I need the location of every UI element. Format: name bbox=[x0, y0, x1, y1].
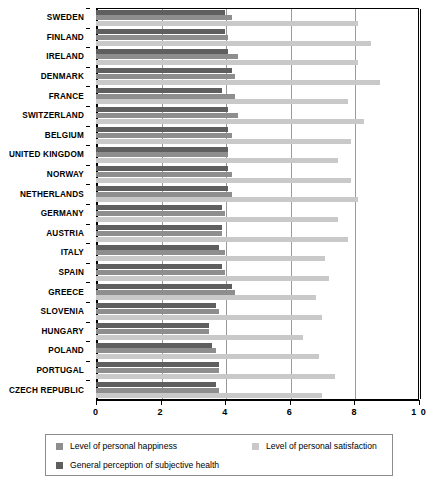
bar-happiness-czech-republic bbox=[96, 388, 219, 393]
x-axis-tick-label-2: 2 bbox=[158, 407, 164, 417]
y-axis-tick bbox=[86, 165, 90, 166]
y-axis-tick bbox=[86, 47, 90, 48]
legend-swatch-satisfaction-icon bbox=[252, 443, 259, 450]
bar-group-switzerland bbox=[96, 106, 419, 126]
bar-satisfaction-belgium bbox=[96, 139, 351, 144]
y-axis-tick bbox=[86, 361, 90, 362]
x-axis-tick-0 bbox=[96, 400, 97, 405]
bar-happiness-austria bbox=[96, 231, 222, 236]
legend-swatch-happiness-icon bbox=[56, 443, 63, 450]
bar-health-belgium bbox=[96, 127, 228, 132]
bar-happiness-netherlands bbox=[96, 192, 232, 197]
bar-satisfaction-hungary bbox=[96, 335, 303, 340]
legend-label-satisfaction: Level of personal satisfaction bbox=[266, 441, 377, 451]
x-axis-tick-label-6: 6 bbox=[287, 407, 293, 417]
bar-health-finland bbox=[96, 29, 225, 34]
bar-health-united-kingdom bbox=[96, 147, 228, 152]
y-axis-tick bbox=[86, 67, 90, 68]
x-axis-tick-label-4: 4 bbox=[222, 407, 228, 417]
horizontal-bar-chart: SWEDENFINLANDIRELANDDENMARKFRANCESWITZER… bbox=[0, 0, 440, 482]
y-axis-label-germany: GERMANY bbox=[0, 204, 90, 224]
y-axis-label-netherlands: NETHERLANDS bbox=[0, 184, 90, 204]
bar-group-united-kingdom bbox=[96, 145, 419, 165]
y-axis-tick bbox=[86, 243, 90, 244]
bar-health-hungary bbox=[96, 323, 209, 328]
bar-happiness-ireland bbox=[96, 54, 238, 59]
bar-group-spain bbox=[96, 263, 419, 283]
bar-happiness-france bbox=[96, 94, 235, 99]
y-axis-tick bbox=[86, 8, 90, 9]
bar-happiness-italy bbox=[96, 250, 225, 255]
bar-happiness-spain bbox=[96, 270, 225, 275]
y-axis-label-france: FRANCE bbox=[0, 86, 90, 106]
y-axis-tick bbox=[86, 380, 90, 381]
x-axis-tick-8 bbox=[354, 400, 355, 405]
y-axis-tick bbox=[86, 28, 90, 29]
bar-happiness-portugal bbox=[96, 368, 219, 373]
bar-happiness-norway bbox=[96, 172, 232, 177]
bar-health-greece bbox=[96, 284, 232, 289]
bar-group-hungary bbox=[96, 322, 419, 342]
bar-group-belgium bbox=[96, 126, 419, 146]
bar-health-germany bbox=[96, 205, 222, 210]
bar-health-slovenia bbox=[96, 303, 216, 308]
y-axis-tick bbox=[86, 341, 90, 342]
y-axis-label-spain: SPAIN bbox=[0, 263, 90, 283]
y-axis-tick bbox=[86, 126, 90, 127]
bar-happiness-finland bbox=[96, 35, 228, 40]
legend-item-satisfaction: Level of personal satisfaction bbox=[252, 441, 377, 451]
bar-health-portugal bbox=[96, 362, 219, 367]
x-axis-line bbox=[96, 400, 419, 401]
y-axis-tick bbox=[86, 322, 90, 323]
gridline-10 bbox=[420, 9, 421, 399]
y-axis-label-belgium: BELGIUM bbox=[0, 126, 90, 146]
y-axis-tick bbox=[86, 224, 90, 225]
legend-item-health: General perception of subjective health bbox=[56, 460, 252, 470]
y-axis-tick bbox=[86, 184, 90, 185]
bar-happiness-greece bbox=[96, 290, 235, 295]
bar-satisfaction-slovenia bbox=[96, 315, 322, 320]
bar-group-germany bbox=[96, 204, 419, 224]
bar-group-france bbox=[96, 86, 419, 106]
y-axis-label-ireland: IRELAND bbox=[0, 47, 90, 67]
bar-happiness-united-kingdom bbox=[96, 152, 228, 157]
chart-legend: Level of personal happiness Level of per… bbox=[45, 434, 393, 476]
bar-satisfaction-switzerland bbox=[96, 119, 364, 124]
bar-happiness-poland bbox=[96, 348, 216, 353]
bar-satisfaction-sweden bbox=[96, 21, 358, 26]
y-axis-label-finland: FINLAND bbox=[0, 28, 90, 48]
bar-health-france bbox=[96, 88, 222, 93]
bar-satisfaction-norway bbox=[96, 178, 351, 183]
bar-satisfaction-czech-republic bbox=[96, 393, 322, 398]
y-axis-label-portugal: PORTUGAL bbox=[0, 361, 90, 381]
bar-satisfaction-netherlands bbox=[96, 197, 358, 202]
y-axis-label-poland: POLAND bbox=[0, 341, 90, 361]
bar-group-portugal bbox=[96, 361, 419, 381]
bar-satisfaction-denmark bbox=[96, 80, 380, 85]
legend-row-1: Level of personal happiness Level of per… bbox=[56, 441, 382, 451]
bar-group-finland bbox=[96, 28, 419, 48]
bar-happiness-hungary bbox=[96, 329, 209, 334]
bar-health-ireland bbox=[96, 49, 228, 54]
bar-satisfaction-portugal bbox=[96, 374, 335, 379]
bar-satisfaction-poland bbox=[96, 354, 319, 359]
y-axis-tick bbox=[86, 86, 90, 87]
bar-group-sweden bbox=[96, 8, 419, 28]
bar-satisfaction-united-kingdom bbox=[96, 158, 338, 163]
bar-happiness-switzerland bbox=[96, 113, 238, 118]
x-axis-tick-2 bbox=[161, 400, 162, 405]
y-axis-label-denmark: DENMARK bbox=[0, 67, 90, 87]
x-axis-tick-label-10: 1 0 bbox=[411, 407, 427, 417]
y-axis-tick bbox=[86, 106, 90, 107]
bar-group-greece bbox=[96, 282, 419, 302]
bar-group-czech-republic bbox=[96, 380, 419, 400]
x-axis-tick-label-0: 0 bbox=[93, 407, 99, 417]
y-axis-tick bbox=[86, 263, 90, 264]
x-axis-tick-6 bbox=[290, 400, 291, 405]
bar-health-austria bbox=[96, 225, 222, 230]
y-axis-tick bbox=[86, 204, 90, 205]
bar-health-netherlands bbox=[96, 186, 228, 191]
y-axis-tick bbox=[86, 145, 90, 146]
y-axis-label-sweden: SWEDEN bbox=[0, 8, 90, 28]
x-axis-tick-4 bbox=[225, 400, 226, 405]
